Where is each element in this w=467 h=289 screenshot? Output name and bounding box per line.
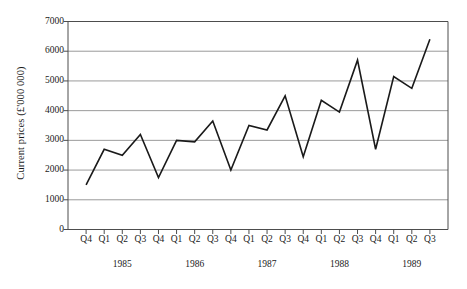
x-axis-year-label: 1988 bbox=[316, 258, 362, 270]
x-axis-year-label: 1987 bbox=[244, 258, 290, 270]
x-axis-year-label: 1986 bbox=[172, 258, 218, 270]
plot-frame bbox=[68, 22, 448, 230]
x-axis-year-labels: 19851986198719881989 bbox=[0, 258, 467, 272]
x-axis-year-label: 1985 bbox=[99, 258, 145, 270]
x-axis-ticks bbox=[64, 22, 430, 235]
gridlines bbox=[68, 51, 448, 200]
x-axis-year-label: 1989 bbox=[389, 258, 435, 270]
x-axis-tick-labels: Q4Q1Q2Q3Q4Q1Q2Q3Q4Q1Q2Q3Q4Q1Q2Q3Q4Q1Q2Q3 bbox=[0, 233, 467, 247]
x-axis-tick-label: Q3 bbox=[417, 233, 443, 245]
chart-container: Current prices (£'000 000) 7000600050004… bbox=[0, 0, 467, 289]
data-series-line bbox=[86, 39, 430, 185]
